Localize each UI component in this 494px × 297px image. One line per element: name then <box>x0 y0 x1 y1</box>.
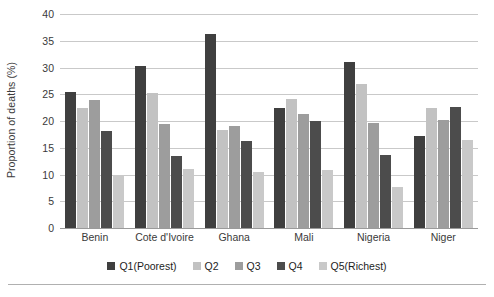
bar[interactable] <box>310 121 321 228</box>
bar[interactable] <box>344 62 355 228</box>
bar[interactable] <box>462 140 473 228</box>
legend-label: Q4 <box>289 260 303 272</box>
legend-label: Q2 <box>205 260 219 272</box>
y-axis-tick-labels: 4035302520151050 <box>24 14 54 228</box>
bar-cluster <box>339 14 409 228</box>
bar-chart: Proportion of deaths (%) 403530252015105… <box>0 0 494 297</box>
x-axis-label: Niger <box>408 231 478 243</box>
bar[interactable] <box>101 131 112 228</box>
legend-item[interactable]: Q4 <box>277 260 303 272</box>
bar[interactable] <box>205 34 216 228</box>
bar[interactable] <box>147 93 158 228</box>
plot-area <box>60 14 478 228</box>
bar[interactable] <box>171 156 182 228</box>
legend-item[interactable]: Q5(Richest) <box>319 260 387 272</box>
bar[interactable] <box>217 130 228 228</box>
bar[interactable] <box>426 108 437 228</box>
bar[interactable] <box>380 155 391 228</box>
legend-label: Q5(Richest) <box>331 260 387 272</box>
y-tick-label: 15 <box>24 143 54 154</box>
bar[interactable] <box>438 120 449 228</box>
legend-swatch-icon <box>277 262 285 270</box>
legend-swatch-icon <box>235 262 243 270</box>
bar-cluster <box>60 14 130 228</box>
bar[interactable] <box>65 92 76 228</box>
legend-swatch-icon <box>319 262 327 270</box>
bar[interactable] <box>253 172 264 228</box>
x-axis-labels: BeninCote d'IvoireGhanaMaliNigeriaNiger <box>60 231 478 243</box>
bar[interactable] <box>183 169 194 228</box>
x-axis-label: Cote d'Ivoire <box>130 231 200 243</box>
bar[interactable] <box>286 99 297 228</box>
legend-label: Q1(Poorest) <box>119 260 176 272</box>
bar[interactable] <box>450 107 461 228</box>
bar-cluster <box>269 14 339 228</box>
bar[interactable] <box>322 170 333 228</box>
bar-clusters <box>60 14 478 228</box>
y-tick-label: 10 <box>24 169 54 180</box>
legend-label: Q3 <box>247 260 261 272</box>
y-tick-label: 20 <box>24 116 54 127</box>
y-axis-title-text: Proportion of deaths (%) <box>5 62 17 178</box>
bar[interactable] <box>135 66 146 228</box>
x-axis-label: Ghana <box>199 231 269 243</box>
bar-cluster <box>408 14 478 228</box>
y-tick-label: 25 <box>24 89 54 100</box>
bar[interactable] <box>241 141 252 228</box>
bar[interactable] <box>77 108 88 228</box>
bar[interactable] <box>298 114 309 228</box>
y-tick-label: 0 <box>24 223 54 234</box>
bar[interactable] <box>356 84 367 228</box>
legend-item[interactable]: Q1(Poorest) <box>107 260 176 272</box>
axis-baseline <box>60 228 478 229</box>
y-tick-label: 40 <box>24 9 54 20</box>
bar[interactable] <box>414 136 425 228</box>
x-axis-label: Nigeria <box>339 231 409 243</box>
bar-cluster <box>199 14 269 228</box>
bar[interactable] <box>89 100 100 228</box>
bar[interactable] <box>274 108 285 228</box>
legend-item[interactable]: Q3 <box>235 260 261 272</box>
legend-swatch-icon <box>107 262 115 270</box>
chart-legend: Q1(Poorest)Q2Q3Q4Q5(Richest) <box>0 260 494 272</box>
bar[interactable] <box>392 187 403 228</box>
legend-swatch-icon <box>193 262 201 270</box>
y-tick-label: 35 <box>24 36 54 47</box>
x-axis-label: Benin <box>60 231 130 243</box>
bar-cluster <box>130 14 200 228</box>
bar[interactable] <box>113 175 124 228</box>
bar[interactable] <box>159 124 170 228</box>
bottom-divider <box>8 284 486 285</box>
y-tick-label: 30 <box>24 62 54 73</box>
y-axis-title: Proportion of deaths (%) <box>0 0 22 240</box>
y-tick-label: 5 <box>24 196 54 207</box>
x-axis-label: Mali <box>269 231 339 243</box>
legend-item[interactable]: Q2 <box>193 260 219 272</box>
bar[interactable] <box>229 126 240 228</box>
bar[interactable] <box>368 123 379 228</box>
